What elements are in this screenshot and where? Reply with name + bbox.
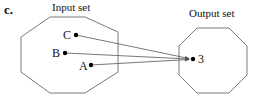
element-a-label: A: [79, 59, 88, 73]
output-set-title: Output set: [189, 7, 235, 19]
element-c-dot: [74, 33, 78, 37]
function-mapping-diagram: c. Input set Output set C B A 3: [0, 0, 258, 96]
element-a-dot: [89, 63, 93, 67]
element-3-label: 3: [198, 52, 204, 66]
output-set-octagon: [179, 28, 247, 93]
element-b-dot: [63, 51, 67, 55]
element-c-label: C: [63, 28, 71, 42]
arrow-c-to-3: [76, 35, 189, 59]
part-label: c.: [4, 2, 13, 17]
element-b-label: B: [52, 46, 60, 60]
input-set-title: Input set: [52, 1, 90, 13]
element-3-dot: [191, 57, 195, 61]
arrow-a-to-3: [91, 60, 189, 66]
